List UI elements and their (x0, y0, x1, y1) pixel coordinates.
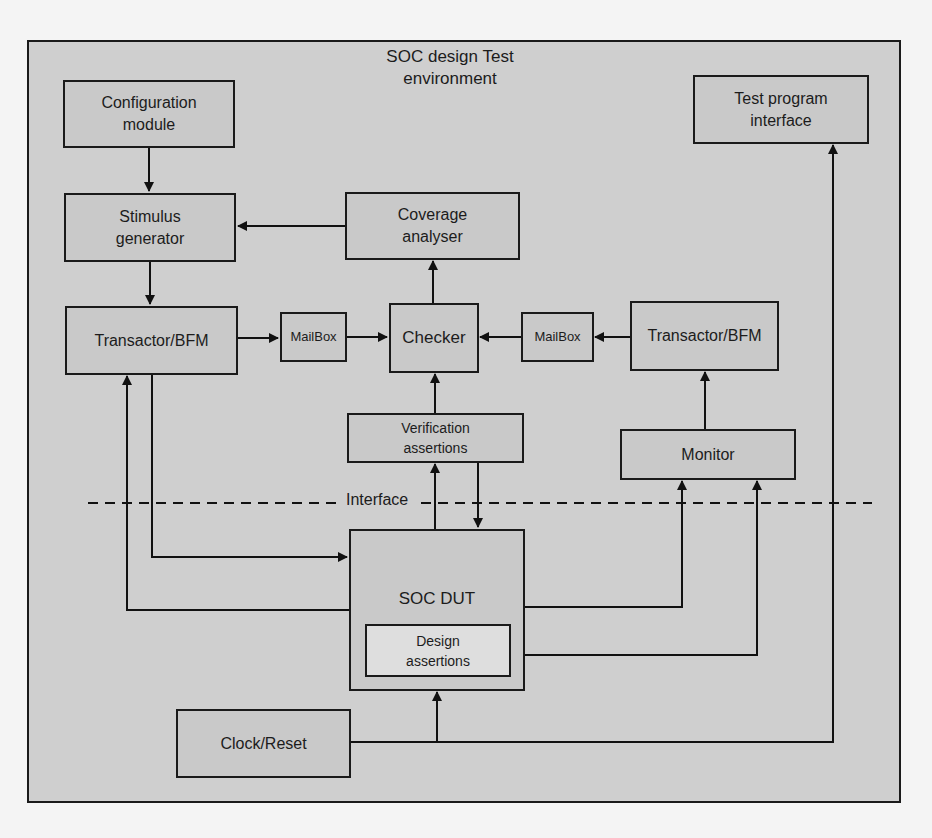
edge-dut-to-transactor (127, 376, 349, 610)
clock-reset-block: Clock/Reset (176, 709, 351, 778)
checker-block: Checker (389, 303, 479, 373)
block-label: assertions (401, 438, 469, 458)
block-label: MailBox (534, 326, 580, 348)
block-label: Monitor (681, 444, 734, 466)
block-label: generator (116, 228, 185, 250)
block-label: Stimulus (116, 206, 185, 228)
block-label: Transactor/BFM (647, 325, 761, 347)
block-label: assertions (406, 651, 470, 671)
block-label: SOC DUT (399, 588, 476, 610)
verification-assertions-block: Verificationassertions (347, 413, 524, 463)
block-label: MailBox (290, 326, 336, 348)
design-assertions-block: Designassertions (365, 624, 511, 677)
transactor-bfm-left-block: Transactor/BFM (65, 306, 238, 375)
coverage-analyser-block: Coverageanalyser (345, 192, 520, 260)
block-label: Transactor/BFM (94, 330, 208, 352)
edge-transactor-to-dut (152, 374, 347, 557)
interface-label: Interface (346, 491, 408, 509)
edge-design-assertions-to-monitor (524, 481, 757, 655)
transactor-bfm-right-block: Transactor/BFM (630, 301, 779, 371)
mailbox-right-block: MailBox (521, 312, 594, 362)
block-label: Design (406, 631, 470, 651)
monitor-block: Monitor (620, 429, 796, 480)
configuration-module-block: Configurationmodule (63, 80, 235, 148)
block-label: Coverage (398, 204, 467, 226)
block-label: analyser (398, 226, 467, 248)
stimulus-generator-block: Stimulusgenerator (64, 193, 236, 262)
block-label: interface (734, 110, 827, 132)
block-label: Clock/Reset (220, 733, 306, 755)
block-label: Verification (401, 418, 469, 438)
block-label: Configuration (101, 92, 196, 114)
test-program-interface-block: Test programinterface (693, 75, 869, 144)
block-label: Checker (402, 327, 465, 349)
diagram-title-line1: SOC design Test (350, 46, 550, 68)
mailbox-left-block: MailBox (280, 312, 347, 362)
diagram-title: SOC design Test environment (350, 46, 550, 90)
block-label: Test program (734, 88, 827, 110)
block-label: module (101, 114, 196, 136)
diagram-title-line2: environment (350, 68, 550, 90)
edge-dut-to-monitor (524, 481, 682, 607)
